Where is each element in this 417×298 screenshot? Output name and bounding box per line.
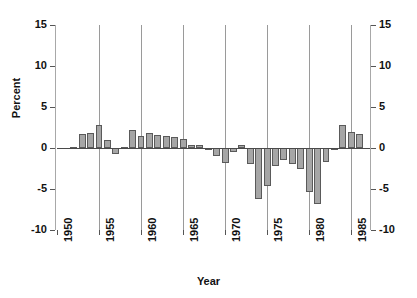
gridline-1965 [183,25,184,230]
bar-1981 [314,148,321,204]
x-tick-1980 [309,230,310,235]
bar-1965 [180,139,187,148]
bar-1980 [306,148,313,192]
y-tick-label-left--5: -5 [5,183,47,194]
y-tick-right-10 [371,66,376,67]
y-tick-label-right--5: -5 [379,183,417,194]
bar-1954 [87,133,94,148]
zero-line [57,148,370,149]
y-tick-label-right-5: 5 [379,101,417,112]
y-tick-label-left-10: 10 [5,60,47,71]
x-tick-1965 [183,230,184,235]
left-axis-spine [55,25,56,230]
gridline-1970 [225,25,226,230]
x-tick-1985 [351,230,352,235]
y-tick-label-left-0: 0 [5,142,47,153]
x-tick-label-1975: 1975 [272,218,284,242]
y-tick-label-left--10: -10 [5,224,47,235]
y-tick-left-10 [50,66,55,67]
y-tick-right-15 [371,25,376,26]
y-tick-right--10 [371,230,376,231]
bar-1953 [79,134,86,148]
y-tick-right--5 [371,189,376,190]
bar-chart: Percent Year 151050-5-10 151050-5-10 195… [0,0,417,298]
bar-1979 [297,148,304,169]
bar-1970 [222,148,229,163]
gridline-1960 [141,25,142,230]
bar-1955 [96,125,103,148]
y-tick-left-15 [50,25,55,26]
bar-1984 [339,125,346,148]
gridline-1985 [351,25,352,230]
bar-1985 [348,132,355,148]
bar-1973 [247,148,254,164]
x-tick-label-1965: 1965 [188,218,200,242]
bar-1978 [289,148,296,164]
bar-1986 [356,134,363,148]
x-tick-label-1960: 1960 [146,218,158,242]
bar-1963 [163,136,170,148]
bar-1975 [264,148,271,186]
y-tick-left--5 [50,189,55,190]
y-tick-right-0 [371,148,376,149]
x-tick-1975 [267,230,268,235]
x-tick-1950 [57,230,58,235]
y-tick-left-0 [50,148,55,149]
y-tick-left--10 [50,230,55,231]
x-tick-label-1950: 1950 [62,218,74,242]
x-tick-label-1970: 1970 [230,218,242,242]
x-tick-label-1985: 1985 [356,218,368,242]
bar-1974 [255,148,262,199]
bar-1960 [138,136,145,148]
x-tick-1970 [225,230,226,235]
bar-1961 [146,133,153,148]
bar-1982 [323,148,330,162]
gridline-1975 [267,25,268,230]
bar-1976 [272,148,279,166]
y-tick-label-left-5: 5 [5,101,47,112]
bar-1964 [171,137,178,148]
bar-1977 [280,148,287,160]
bar-1969 [213,148,220,156]
gridline-1980 [309,25,310,230]
y-tick-label-right-15: 15 [379,19,417,30]
bar-1962 [154,135,161,148]
x-tick-1960 [141,230,142,235]
y-tick-label-left-15: 15 [5,19,47,30]
bar-1956 [104,140,111,148]
y-axis-title: Percent [10,68,22,128]
y-tick-right-5 [371,107,376,108]
y-tick-left-5 [50,107,55,108]
right-axis-spine [370,25,371,230]
bar-1959 [129,130,136,148]
y-tick-label-right-0: 0 [379,142,417,153]
y-tick-label-right-10: 10 [379,60,417,71]
x-axis-title: Year [0,275,417,287]
x-tick-1955 [99,230,100,235]
x-tick-label-1955: 1955 [104,218,116,242]
y-tick-label-right--10: -10 [379,224,417,235]
x-tick-label-1980: 1980 [314,218,326,242]
